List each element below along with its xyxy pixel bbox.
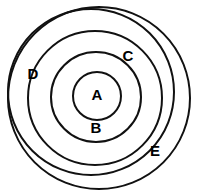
label-a: A [92,86,103,103]
label-d: D [28,65,39,82]
label-c: C [123,47,134,64]
nested-circles-canvas: A B C D E [0,0,199,195]
label-b: B [91,119,102,136]
nested-circles-diagram: A B C D E [0,0,199,195]
label-e: E [150,142,160,159]
